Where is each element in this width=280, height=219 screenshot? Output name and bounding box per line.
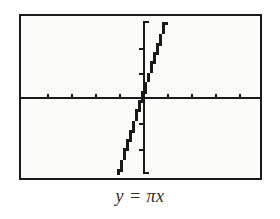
curve-pixel xyxy=(135,115,138,118)
curve-pixel xyxy=(159,34,162,37)
curve-pixel xyxy=(150,67,153,70)
curve-pixel xyxy=(141,91,144,94)
curve-pixel xyxy=(135,118,138,121)
curve-pixel xyxy=(123,151,126,154)
y-axis-bottom-cap xyxy=(143,172,149,174)
graph-plot-area xyxy=(21,16,260,178)
curve-pixel xyxy=(141,94,144,97)
curve-pixel xyxy=(159,40,162,43)
curve-pixel xyxy=(150,64,153,67)
x-axis-line xyxy=(21,97,260,99)
curve-pixel xyxy=(156,46,159,49)
curve-pixel xyxy=(150,70,153,73)
curve-pixel xyxy=(153,61,156,64)
curve-pixel xyxy=(138,103,141,106)
curve-pixel xyxy=(123,154,126,157)
x-tick xyxy=(191,94,193,98)
curve-pixel xyxy=(126,145,129,148)
curve-pixel xyxy=(132,127,135,130)
curve-pixel xyxy=(132,130,135,133)
curve-pixel xyxy=(123,157,126,160)
curve-pixel xyxy=(138,100,141,103)
curve-pixel xyxy=(156,52,159,55)
curve-pixel xyxy=(120,163,123,166)
curve-pixel xyxy=(144,85,147,88)
curve-pixel xyxy=(159,37,162,40)
x-tick xyxy=(167,94,169,98)
calculator-screen-frame xyxy=(19,14,262,180)
curve-pixel xyxy=(150,61,153,64)
figure-caption: y = πx xyxy=(0,186,280,207)
x-tick xyxy=(95,94,97,98)
curve-pixel xyxy=(117,169,120,172)
curve-pixel xyxy=(144,91,147,94)
caption-text: y = πx xyxy=(115,186,164,206)
curve-pixel xyxy=(123,148,126,151)
curve-pixel xyxy=(141,97,144,100)
curve-pixel xyxy=(147,76,150,79)
curve-pixel xyxy=(162,22,165,25)
curve-pixel xyxy=(129,139,132,142)
curve-pixel xyxy=(120,169,123,172)
curve-pixel xyxy=(129,136,132,139)
curve-pixel xyxy=(129,133,132,136)
curve-pixel xyxy=(126,142,129,145)
curve-pixel xyxy=(156,49,159,52)
y-tick xyxy=(139,48,144,50)
curve-pixel xyxy=(147,73,150,76)
curve-pixel xyxy=(135,112,138,115)
curve-pixel xyxy=(162,25,165,28)
curve-pixel xyxy=(141,100,144,103)
y-tick xyxy=(139,73,144,75)
y-axis-top-cap xyxy=(143,21,149,23)
curve-pixel xyxy=(126,148,129,151)
curve-pixel xyxy=(144,88,147,91)
curve-pixel xyxy=(156,43,159,46)
curve-pixel xyxy=(165,22,168,25)
curve-pixel xyxy=(153,58,156,61)
curve-pixel xyxy=(120,166,123,169)
curve-pixel xyxy=(159,43,162,46)
y-tick xyxy=(139,149,144,151)
curve-pixel xyxy=(117,172,120,175)
curve-pixel xyxy=(162,31,165,34)
curve-pixel xyxy=(147,79,150,82)
figure-container: y = πx xyxy=(0,0,280,219)
curve-pixel xyxy=(126,139,129,142)
x-tick xyxy=(215,94,217,98)
curve-pixel xyxy=(129,130,132,133)
curve-pixel xyxy=(153,52,156,55)
curve-pixel xyxy=(144,82,147,85)
y-tick xyxy=(139,123,144,125)
x-tick xyxy=(239,94,241,98)
curve-pixel xyxy=(135,109,138,112)
x-tick xyxy=(71,94,73,98)
x-tick xyxy=(119,94,121,98)
curve-pixel xyxy=(153,55,156,58)
curve-pixel xyxy=(138,106,141,109)
curve-pixel xyxy=(120,160,123,163)
x-tick xyxy=(47,94,49,98)
curve-pixel xyxy=(132,124,135,127)
curve-pixel xyxy=(162,28,165,31)
curve-pixel xyxy=(138,109,141,112)
curve-pixel xyxy=(132,121,135,124)
